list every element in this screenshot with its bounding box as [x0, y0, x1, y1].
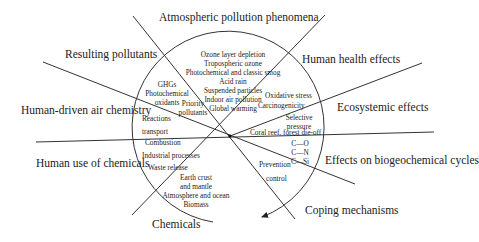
item-c-o: C—O: [291, 139, 308, 148]
priority-pollutants: Priority pollutants: [176, 99, 210, 117]
chemicals-sources-list: Earth crust and mantle Atmosphere and oc…: [160, 173, 232, 209]
label-human-health-effects: Human health effects: [302, 53, 400, 65]
item-selective: Selective: [286, 113, 313, 122]
item-reactions: Reactions: [142, 114, 171, 123]
item-ozone-layer-depletion: Ozone layer depletion: [201, 50, 265, 59]
label-resulting-pollutants: Resulting pollutants: [65, 48, 157, 60]
item-smog: Photochemical and classic smog: [186, 68, 281, 77]
label-chemicals: Chemicals: [152, 218, 201, 230]
label-ecosystemic-effects: Ecosystemic effects: [337, 101, 428, 113]
spoke-line-3: [36, 132, 434, 142]
item-pollutants: pollutants: [179, 108, 208, 117]
item-photochemical: Photochemical: [145, 89, 188, 98]
item-atmosphere-and-ocean: Atmosphere and ocean: [163, 191, 230, 200]
item-ghgs: GHGs: [158, 80, 177, 89]
item-coral-reef-forest-die-off: Coral reef, forest die-off: [250, 128, 321, 137]
item-biomass: Biomass: [183, 200, 208, 209]
label-human-use-of-chemicals: Human use of chemicals: [36, 157, 149, 169]
item-suspended-particles: Suspended particles: [204, 86, 262, 95]
item-priority: Priority: [182, 99, 204, 108]
item-global-warming: Global warming: [209, 104, 257, 113]
item-c-si: C—Si: [291, 157, 309, 166]
item-tropospheric-ozone: Tropospheric ozone: [204, 59, 262, 68]
item-control: control: [266, 174, 287, 183]
item-prevention: Prevention: [259, 160, 291, 169]
item-industrial-processes: Industrial processes: [142, 151, 200, 160]
item-combustion: Combustion: [145, 138, 181, 147]
item-waste-release: Waste release: [148, 163, 188, 172]
item-carcinogenicity: Carcinogenicity: [258, 101, 305, 110]
label-human-driven-air-chemistry: Human-driven air chemistry: [21, 104, 151, 116]
item-and-mantle: and mantle: [180, 182, 212, 191]
center-dot: [228, 134, 231, 137]
item-earth-crust: Earth crust: [180, 173, 212, 182]
item-indoor-air-pollution: Indoor air pollution: [204, 95, 261, 104]
item-acid-rain: Acid rain: [219, 77, 246, 86]
item-transport: transport: [142, 127, 168, 136]
item-oxidative-stress: Oxidative stress: [265, 91, 312, 100]
label-atmospheric-pollution-phenomena: Atmospheric pollution phenomena: [159, 11, 319, 23]
label-coping-mechanisms: Coping mechanisms: [305, 204, 399, 216]
item-c-n: C—N: [291, 148, 308, 157]
label-biogeochemical-cycles: Effects on biogeochemical cycles: [325, 154, 479, 166]
